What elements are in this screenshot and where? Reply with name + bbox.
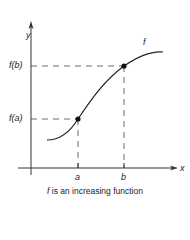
curve-label: f bbox=[143, 37, 146, 47]
a-label: a bbox=[75, 172, 80, 182]
b-label: b bbox=[121, 172, 126, 182]
fa-label: f(a) bbox=[9, 113, 23, 123]
caption-text: is an increasing function bbox=[49, 186, 143, 196]
point-b bbox=[121, 63, 126, 68]
point-a bbox=[75, 116, 80, 121]
caption: f is an increasing function bbox=[47, 186, 143, 196]
function-curve bbox=[47, 52, 163, 140]
fb-label: f(b) bbox=[9, 60, 23, 70]
y-axis-label: y bbox=[26, 30, 31, 40]
x-axis-label: x bbox=[180, 163, 185, 173]
